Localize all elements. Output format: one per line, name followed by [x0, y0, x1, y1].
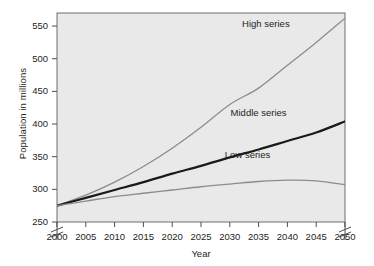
population-projection-chart: Population in millions Year 250300350400…	[0, 0, 374, 266]
series-label-middle-series: Middle series	[231, 107, 287, 118]
x-axis-ticks	[57, 222, 345, 227]
plot-area-background	[57, 13, 345, 222]
y-tick-label: 500	[22, 54, 48, 64]
chart-canvas	[0, 0, 374, 266]
series-label-high-series: High series	[242, 18, 290, 29]
x-axis-title: Year	[57, 248, 345, 259]
y-axis-ticks	[52, 26, 57, 222]
x-tick-label: 2050	[328, 232, 362, 242]
y-tick-label: 450	[22, 86, 48, 96]
y-tick-label: 350	[22, 152, 48, 162]
y-tick-label: 550	[22, 21, 48, 31]
y-tick-label: 400	[22, 119, 48, 129]
y-tick-label: 250	[22, 217, 48, 227]
series-label-low-series: Low series	[225, 149, 270, 160]
y-axis-title: Population in millions	[17, 24, 28, 204]
y-tick-label: 300	[22, 184, 48, 194]
